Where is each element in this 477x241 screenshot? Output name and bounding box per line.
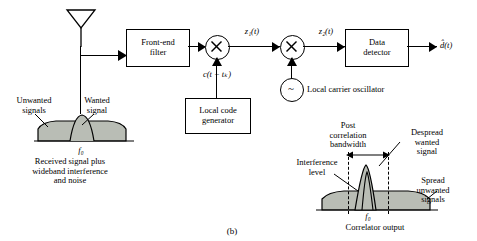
post-correlation-bandwidth-label: Post correlation bandwidth <box>316 121 380 150</box>
correlator-output-caption: Correlator output <box>330 223 420 233</box>
local-carrier-oscillator-label: Local carrier oscillator <box>307 85 384 95</box>
arrow-code-to-mixer1-icon <box>212 57 222 66</box>
mixer2-cross-icon <box>284 39 299 54</box>
local-code-generator-label: Local code generator <box>199 106 237 126</box>
data-detector-block[interactable]: Data detector <box>345 29 409 67</box>
received-signal-caption: Received signal plus wideband interferen… <box>14 157 126 186</box>
arrow-output-icon <box>429 42 438 52</box>
output-signal-label: d̂(t) <box>440 41 452 51</box>
spread-unwanted-signals-leader <box>424 190 440 206</box>
antenna-icon <box>62 8 100 48</box>
despread-wanted-signal-leader <box>374 140 404 170</box>
oscillator-tilde-icon: ~ <box>280 82 302 94</box>
arrow-osc-to-mixer2-icon <box>287 57 297 66</box>
despread-wanted-signal-label: Despread wanted signal <box>396 128 458 157</box>
front-end-filter-block[interactable]: Front-end filter <box>126 29 190 67</box>
interference-level-leader <box>332 173 362 195</box>
data-detector-label: Data detector <box>363 38 390 58</box>
left-spectrum-f0-label: f₀ <box>69 146 93 156</box>
local-code-generator-block[interactable]: Local code generator <box>185 98 251 134</box>
figure-caption: (b) <box>212 226 252 236</box>
front-end-filter-label: Front-end filter <box>141 38 175 58</box>
wanted-signal-leader <box>78 114 100 128</box>
code-signal-label: c(t − tₖ) <box>190 70 244 80</box>
unwanted-signals-label: Unwanted signals <box>6 96 62 115</box>
z2-signal-label: z₂(t) <box>304 27 348 37</box>
z1-signal-label: z₁(t) <box>230 27 274 37</box>
figure-container: Front-end filter z₁(t) z₂(t) Data detect… <box>0 0 477 241</box>
right-spectrum-f0-label: f₀ <box>356 212 380 222</box>
unwanted-signals-leader <box>34 114 56 130</box>
wanted-signal-label: Wanted signal <box>70 96 124 115</box>
mixer1-cross-icon <box>209 39 224 54</box>
